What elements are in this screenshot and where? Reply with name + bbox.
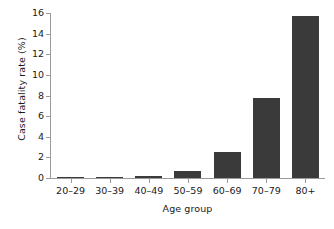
x-axis-tick-mark [110,179,111,183]
y-axis-tick-label: 4 [22,132,44,142]
bar-slot [168,13,207,178]
bar-slot [129,13,168,178]
bar[interactable] [96,177,123,178]
bar[interactable] [57,177,84,178]
y-axis-tick-mark [46,178,50,179]
bar-slot [90,13,129,178]
bar-slot [51,13,90,178]
y-axis-tick-label: 10 [22,70,44,80]
bar[interactable] [253,98,280,178]
y-axis-tick-label: 12 [22,50,44,60]
bar[interactable] [174,171,201,178]
y-axis-tick-mark [46,75,50,76]
bar-slot [208,13,247,178]
bar-slot [286,13,325,178]
y-axis-tick-mark [46,137,50,138]
x-axis-tick-mark [305,179,306,183]
y-axis-tick-label: 0 [22,173,44,183]
bar-slot [247,13,286,178]
y-axis-tick-label: 2 [22,153,44,163]
plot-area [51,13,325,178]
y-axis-tick-mark [46,96,50,97]
bar[interactable] [135,176,162,178]
y-axis-tick-mark [46,116,50,117]
x-axis-title: Age group [50,203,325,214]
y-axis-tick-label: 6 [22,111,44,121]
x-axis-tick-mark [71,179,72,183]
x-axis-tick-mark [188,179,189,183]
bar[interactable] [214,152,241,178]
x-axis-tick-label: 80+ [275,186,334,196]
x-axis-tick-mark [149,179,150,183]
y-axis-tick-label: 16 [22,8,44,18]
y-axis-tick-label: 8 [22,91,44,101]
bar[interactable] [292,16,319,178]
y-axis-tick-mark [46,54,50,55]
y-axis-tick-mark [46,157,50,158]
x-axis-tick-mark [227,179,228,183]
y-axis-tick-label: 14 [22,29,44,39]
y-axis-tick-mark [46,13,50,14]
x-axis-tick-mark [266,179,267,183]
y-axis-tick-mark [46,34,50,35]
bar-chart: Case fatality rate (%) 0246810121416 Age… [0,0,334,229]
